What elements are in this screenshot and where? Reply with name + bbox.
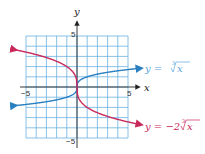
y-axis-label: y — [73, 6, 80, 17]
red-equation-label: y = −2 3 x — [144, 118, 200, 132]
chart-canvas: −5 5 5 −5 x y y = 3 x y = −2 3 x — [0, 0, 205, 154]
svg-text:y =: y = — [144, 63, 162, 74]
red-eq-radicand: x — [187, 121, 193, 132]
svg-text:y = −2: y = −2 — [144, 121, 180, 132]
blue-eq-radicand: x — [177, 63, 183, 74]
x-axis-label: x — [144, 82, 150, 93]
y-tick-max: 5 — [71, 30, 76, 39]
red-eq-prefix: y = −2 — [144, 121, 180, 132]
x-tick-min: −5 — [21, 89, 31, 98]
blue-equation-label: y = 3 x — [144, 60, 190, 74]
y-tick-min: −5 — [66, 137, 76, 146]
x-tick-max: 5 — [127, 89, 132, 98]
blue-eq-prefix: y = — [144, 63, 162, 74]
